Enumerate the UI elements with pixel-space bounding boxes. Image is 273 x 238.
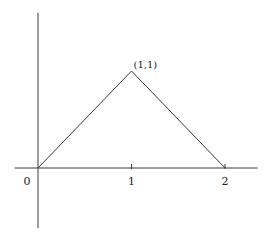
x-tick-label-0: 0 <box>24 175 31 188</box>
series <box>38 71 225 168</box>
chart: 012 (1,1) <box>0 0 273 238</box>
series-line-triangle <box>38 71 225 168</box>
tick-labels: 012 <box>24 175 229 188</box>
annotations: (1,1) <box>134 59 158 70</box>
x-tick-label-1: 1 <box>128 175 135 188</box>
x-tick-label-2: 2 <box>222 175 229 188</box>
point-annotation: (1,1) <box>134 59 158 70</box>
